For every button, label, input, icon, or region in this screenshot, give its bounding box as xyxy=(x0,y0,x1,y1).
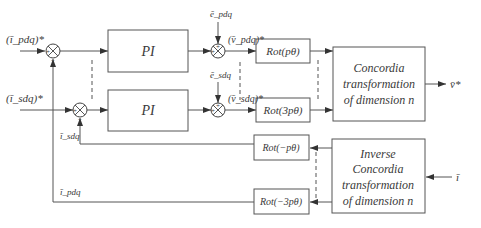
label-i-sdq-feedback: ī_sdq xyxy=(60,131,80,141)
svg-text:of dimension n: of dimension n xyxy=(344,93,415,107)
svg-text:of dimension n: of dimension n xyxy=(343,194,414,208)
sum-junction-2: + − xyxy=(73,103,87,124)
svg-text:(ī_pdq)*: (ī_pdq)* xyxy=(6,33,44,46)
svg-text:Rot(pθ): Rot(pθ) xyxy=(265,45,300,58)
svg-text:+: + xyxy=(211,48,215,56)
control-block-diagram: (ī_pdq)* (ī_sdq)* + − + − + + xyxy=(0,0,481,228)
svg-text:PI: PI xyxy=(140,44,156,59)
concordia-transformation-block: Concordia transformation of dimension n xyxy=(333,47,425,121)
svg-text:+: + xyxy=(211,107,215,115)
sum-junction-1: + − xyxy=(46,44,60,65)
svg-text:+: + xyxy=(216,43,220,51)
svg-text:Rot(−pθ): Rot(−pθ) xyxy=(261,142,300,154)
label-v-pdq-ref: (v̄_pdq)* xyxy=(228,34,264,46)
label-e-sdq: ē_sdq xyxy=(210,70,231,80)
svg-text:Inverse: Inverse xyxy=(359,147,396,161)
svg-text:Concordia: Concordia xyxy=(354,61,405,75)
svg-text:−: − xyxy=(78,116,82,124)
label-output-v: v̄* xyxy=(450,78,461,90)
svg-text:Concordia: Concordia xyxy=(353,162,404,176)
pi-controller-1: PI xyxy=(108,30,188,72)
inverse-concordia-transformation-block: Inverse Concordia transformation of dime… xyxy=(332,139,425,213)
svg-text:(ī_sdq)*: (ī_sdq)* xyxy=(6,92,43,105)
rotation-block-minus-p-theta: Rot(−pθ) xyxy=(254,135,309,160)
label-v-sdq-ref: (v̄_sdq)* xyxy=(228,93,263,105)
svg-text:−: − xyxy=(51,57,55,65)
svg-text:+: + xyxy=(46,48,50,56)
svg-text:transformation: transformation xyxy=(343,77,415,91)
svg-text:transformation: transformation xyxy=(342,178,414,192)
label-i-pdq-feedback: ī_pdq xyxy=(60,187,81,197)
sum-junction-4: + + xyxy=(211,102,225,117)
rotation-block-3p-theta: Rot(3pθ) xyxy=(256,98,310,122)
svg-text:Rot(−3pθ): Rot(−3pθ) xyxy=(259,196,303,208)
rotation-block-minus-3p-theta: Rot(−3pθ) xyxy=(254,189,309,214)
svg-text:+: + xyxy=(216,102,220,110)
input-ref-pdq: (ī_pdq)* xyxy=(6,33,44,46)
svg-text:+: + xyxy=(73,107,77,115)
sum-junction-3: + + xyxy=(211,43,225,58)
input-ref-sdq: (ī_sdq)* xyxy=(6,92,43,105)
svg-text:Rot(3pθ): Rot(3pθ) xyxy=(262,104,302,117)
label-input-i: ī xyxy=(456,171,460,183)
pi-controller-2: PI xyxy=(108,90,188,131)
label-e-pdq: ē_pdq xyxy=(210,9,232,19)
svg-text:PI: PI xyxy=(140,103,156,118)
